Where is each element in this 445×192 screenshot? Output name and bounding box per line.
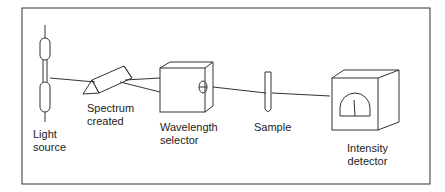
spectrum-label-2: created [87,115,134,128]
wavelength-label-1: Wavelength [160,121,218,134]
detector-label-2: detector [347,155,388,168]
prism-icon [83,66,132,94]
intensity-detector-cube-icon [332,70,399,130]
light-source-lamp-icon [40,25,50,122]
light-source-label-2: source [33,141,66,154]
spectrum-label-1: Spectrum [87,102,134,115]
detector-label-1: Intensity [347,142,388,155]
light-source-label-1: Light [33,128,66,141]
sample-label: Sample [254,121,291,134]
sample-tube-icon [265,72,271,112]
wavelength-label-2: selector [160,134,218,147]
wavelength-selector-cube-icon [160,62,213,112]
